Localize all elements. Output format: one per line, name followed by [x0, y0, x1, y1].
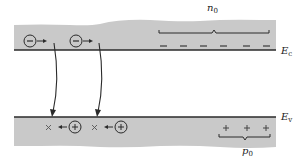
p0-label: p0: [242, 146, 253, 158]
ev-label: Ev: [281, 112, 292, 124]
valence-band-region: [14, 117, 276, 148]
recombination-arrow-1: [50, 43, 57, 117]
band-diagram-canvas: [0, 0, 306, 165]
conduction-band-region: [14, 20, 276, 50]
recombination-arrow-2: [95, 43, 102, 117]
ec-label: Ec: [281, 46, 292, 58]
n0-label: n0: [207, 3, 218, 15]
